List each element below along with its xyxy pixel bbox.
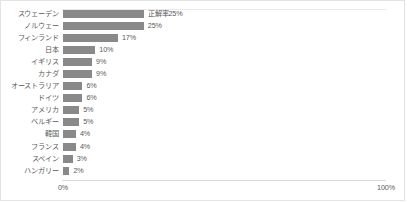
table-row: アメリカ 5% bbox=[1, 104, 406, 116]
value-label: 17% bbox=[122, 34, 136, 42]
bar-group: 9% bbox=[63, 58, 106, 66]
category-label: フィンランド bbox=[1, 32, 59, 44]
bar bbox=[63, 118, 79, 126]
category-label: ベルギー bbox=[1, 116, 59, 128]
bar-group: 5% bbox=[63, 106, 93, 114]
bar-group: 2% bbox=[63, 167, 84, 175]
table-row: スウェーデン 正解率25% bbox=[1, 8, 406, 20]
bar-group: 6% bbox=[63, 82, 97, 90]
category-label: 韓国 bbox=[1, 128, 59, 140]
category-label: スペイン bbox=[1, 153, 59, 165]
bar-group: 9% bbox=[63, 70, 106, 78]
value-label: 6% bbox=[86, 94, 96, 102]
table-row: カナダ 9% bbox=[1, 68, 406, 80]
bar-chart: スウェーデン 正解率25% ノルウェー 25% フィンランド 17% 日本 bbox=[0, 0, 405, 201]
table-row: ドイツ 6% bbox=[1, 92, 406, 104]
bar bbox=[63, 34, 118, 42]
value-label: 4% bbox=[80, 130, 90, 138]
bar bbox=[63, 10, 144, 18]
category-label: フランス bbox=[1, 141, 59, 153]
table-row: ノルウェー 25% bbox=[1, 20, 406, 32]
bar bbox=[63, 94, 82, 102]
table-row: 韓国 4% bbox=[1, 128, 406, 140]
value-label: 10% bbox=[99, 46, 113, 54]
bar-group: 4% bbox=[63, 143, 90, 151]
bar-group: 6% bbox=[63, 94, 97, 102]
table-row: オーストラリア 6% bbox=[1, 80, 406, 92]
bar-group: 正解率25% bbox=[63, 10, 183, 18]
category-label: ドイツ bbox=[1, 92, 59, 104]
table-row: 日本 10% bbox=[1, 44, 406, 56]
table-row: ハンガリー 2% bbox=[1, 165, 406, 177]
value-label: 5% bbox=[83, 106, 93, 114]
table-row: フランス 4% bbox=[1, 141, 406, 153]
category-label: ノルウェー bbox=[1, 20, 59, 32]
bar-group: 4% bbox=[63, 130, 90, 138]
table-row: フィンランド 17% bbox=[1, 32, 406, 44]
table-row: イギリス 9% bbox=[1, 56, 406, 68]
bar-group: 3% bbox=[63, 155, 87, 163]
x-tick-label: 100% bbox=[377, 183, 395, 192]
bar bbox=[63, 46, 95, 54]
category-label: アメリカ bbox=[1, 104, 59, 116]
value-label: 6% bbox=[86, 82, 96, 90]
bar bbox=[63, 167, 69, 175]
bar bbox=[63, 130, 76, 138]
category-label: イギリス bbox=[1, 56, 59, 68]
category-label: 日本 bbox=[1, 44, 59, 56]
bar bbox=[63, 106, 79, 114]
bar bbox=[63, 143, 76, 151]
bar-rows: スウェーデン 正解率25% ノルウェー 25% フィンランド 17% 日本 bbox=[1, 8, 406, 180]
x-tick-label: 0% bbox=[58, 183, 68, 192]
value-label: 25% bbox=[148, 22, 162, 30]
value-label: 5% bbox=[83, 118, 93, 126]
bar bbox=[63, 82, 82, 90]
bar-group: 10% bbox=[63, 46, 113, 54]
table-row: スペイン 3% bbox=[1, 153, 406, 165]
category-label: スウェーデン bbox=[1, 8, 59, 20]
value-label: 4% bbox=[80, 143, 90, 151]
value-label: 正解率25% bbox=[148, 10, 183, 18]
bar-group: 5% bbox=[63, 118, 93, 126]
bar bbox=[63, 22, 144, 30]
category-label: カナダ bbox=[1, 68, 59, 80]
bar bbox=[63, 70, 92, 78]
x-axis: 0% 100% bbox=[1, 183, 406, 197]
bar-group: 17% bbox=[63, 34, 136, 42]
bar-group: 25% bbox=[63, 22, 162, 30]
bar bbox=[63, 58, 92, 66]
value-label: 3% bbox=[77, 155, 87, 163]
value-label: 9% bbox=[96, 58, 106, 66]
bar bbox=[63, 155, 73, 163]
category-label: ハンガリー bbox=[1, 165, 59, 177]
value-label: 2% bbox=[73, 167, 83, 175]
value-label: 9% bbox=[96, 70, 106, 78]
category-label: オーストラリア bbox=[1, 80, 59, 92]
table-row: ベルギー 5% bbox=[1, 116, 406, 128]
